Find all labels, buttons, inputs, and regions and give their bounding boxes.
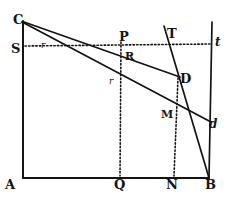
point-label-T: T [167,27,177,40]
dotted-vertical-D-to-N [174,78,178,176]
line-ray-C-to-D [24,22,180,77]
point-label-P: P [119,30,129,43]
point-label-r2: r [41,41,45,50]
point-label-A: A [5,178,15,191]
geometric-figure: CSAQNBPTDMRtdrr [0,0,232,200]
dotted-lines-group [25,42,212,176]
line-line-T-to-B [164,26,209,178]
dotted-vertical-P-to-Q [120,42,121,176]
point-label-d: d [209,118,217,130]
point-label-R: R [125,51,134,62]
point-label-C: C [13,13,23,26]
point-label-M: M [161,109,173,120]
line-right-side-t-B [209,22,212,178]
point-label-N: N [166,178,178,191]
point-label-r1: r [109,77,113,86]
point-label-D: D [180,72,191,85]
dotted-horizontal-S-to-t [25,44,212,46]
point-label-t: t [215,36,221,48]
figure-canvas [0,0,232,200]
point-label-Q: Q [114,178,125,191]
point-label-B: B [205,178,216,191]
point-label-S: S [11,42,20,55]
